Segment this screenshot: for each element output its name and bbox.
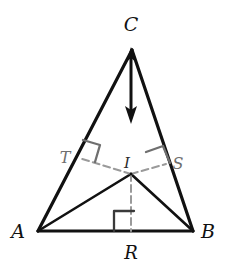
incenter-point — [129, 172, 132, 175]
point-label-r: R — [123, 242, 138, 263]
point-label-i: I — [123, 154, 131, 172]
segment-is — [131, 164, 166, 174]
vertex-label-a: A — [9, 220, 25, 242]
geometry-figure: A B C T S R I — [0, 0, 227, 269]
point-label-t: T — [60, 148, 72, 167]
right-angle-mark-t — [83, 140, 100, 162]
point-label-s: S — [173, 154, 184, 173]
vertex-label-c: C — [124, 13, 139, 35]
cevians — [38, 174, 193, 231]
geometry-diagram: A B C T S R I — [0, 0, 227, 269]
triangle-abc — [38, 50, 193, 231]
vertex-label-b: B — [200, 220, 215, 242]
